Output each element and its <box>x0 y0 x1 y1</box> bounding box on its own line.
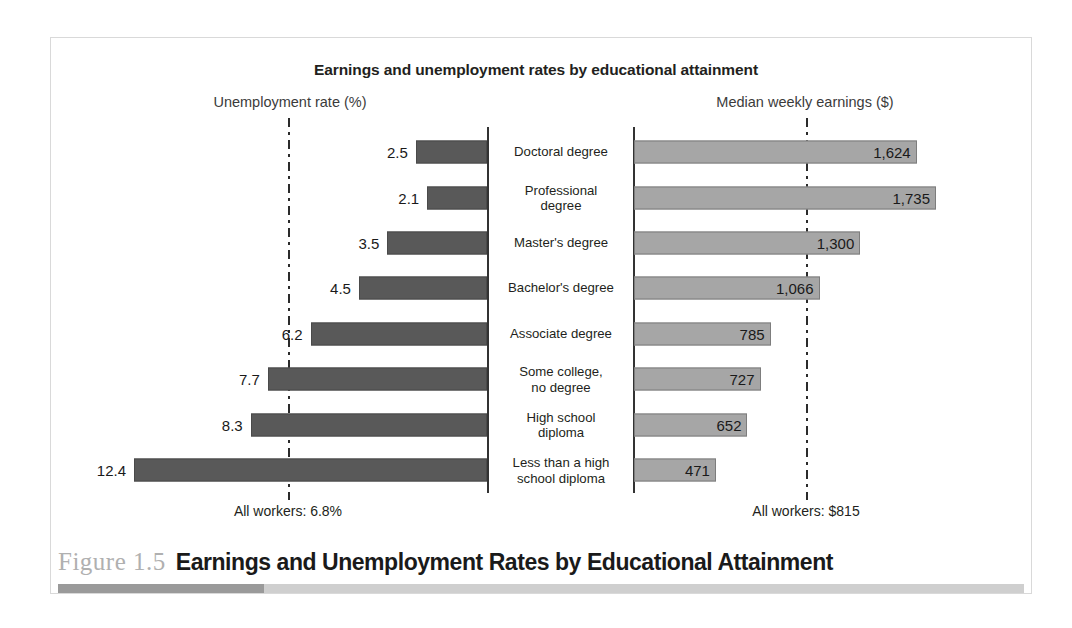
unemployment-value-label: 2.5 <box>387 144 408 161</box>
chart-row: 6.2Associate degree785 <box>0 312 1072 357</box>
unemployment-value-label: 7.7 <box>239 371 260 388</box>
unemployment-value-label: 12.4 <box>97 462 126 479</box>
category-label-line: Some college, <box>519 364 603 379</box>
unemployment-bar-track: 12.4 <box>100 448 487 493</box>
unemployment-bar <box>387 232 487 255</box>
category-label-line: Professional <box>525 182 598 197</box>
unemployment-bar-track: 2.1 <box>100 175 487 220</box>
category-label-line: degree <box>540 198 581 213</box>
category-label: Master's degree <box>489 235 633 251</box>
earnings-bar-track: 1,300 <box>634 221 964 266</box>
earnings-value-label: 1,735 <box>874 189 930 206</box>
earnings-value-label: 1,624 <box>855 144 911 161</box>
earnings-bar-track: 1,624 <box>634 130 964 175</box>
unemployment-bar <box>251 413 487 436</box>
unemployment-value-label: 3.5 <box>359 235 380 252</box>
category-label-line: Master's degree <box>514 235 608 250</box>
category-label-line: Associate degree <box>510 326 612 341</box>
unemployment-bar-track: 3.5 <box>100 221 487 266</box>
earnings-value-label: 727 <box>699 371 755 388</box>
category-label-line: Bachelor's degree <box>508 281 614 296</box>
earnings-value-label: 785 <box>709 325 765 342</box>
all-workers-earnings-label: All workers: $815 <box>752 503 859 519</box>
category-label: Associate degree <box>489 326 633 342</box>
unemployment-bar-track: 7.7 <box>100 357 487 402</box>
unemployment-bar-track: 6.2 <box>100 312 487 357</box>
earnings-value-label: 471 <box>654 462 710 479</box>
unemployment-bar <box>416 141 487 164</box>
category-label: High schooldiploma <box>489 409 633 440</box>
unemployment-value-label: 2.1 <box>398 189 419 206</box>
figure-title: Earnings and Unemployment Rates by Educa… <box>176 549 833 575</box>
unemployment-bar <box>134 459 487 482</box>
unemployment-value-label: 8.3 <box>222 416 243 433</box>
chart-row: 2.5Doctoral degree1,624 <box>0 130 1072 175</box>
unemployment-bar <box>311 322 488 345</box>
caption-rule-accent <box>58 584 264 593</box>
chart-row: 7.7Some college,no degree727 <box>0 357 1072 402</box>
unemployment-bar-track: 8.3 <box>100 402 487 447</box>
unemployment-bar <box>268 368 487 391</box>
earnings-bar-track: 727 <box>634 357 964 402</box>
earnings-value-label: 1,300 <box>798 235 854 252</box>
butterfly-bar-chart: 2.5Doctoral degree1,6242.1Professionalde… <box>0 0 1072 628</box>
chart-row: 12.4Less than a highschool diploma471 <box>0 448 1072 493</box>
chart-row: 2.1Professionaldegree1,735 <box>0 175 1072 220</box>
earnings-bar-track: 1,735 <box>634 175 964 220</box>
unemployment-bar <box>359 277 487 300</box>
category-label-line: school diploma <box>517 470 605 485</box>
category-label-line: Doctoral degree <box>514 145 608 160</box>
chart-row: 4.5Bachelor's degree1,066 <box>0 266 1072 311</box>
category-label: Professionaldegree <box>489 182 633 213</box>
category-label-line: no degree <box>531 379 590 394</box>
unemployment-bar-track: 2.5 <box>100 130 487 175</box>
chart-row: 8.3High schooldiploma652 <box>0 402 1072 447</box>
all-workers-unemployment-label: All workers: 6.8% <box>234 503 342 519</box>
earnings-bar-track: 1,066 <box>634 266 964 311</box>
category-label-line: diploma <box>538 425 584 440</box>
earnings-bar-track: 471 <box>634 448 964 493</box>
caption-line: Figure 1.5Earnings and Unemployment Rate… <box>58 548 833 576</box>
earnings-bar-track: 652 <box>634 402 964 447</box>
figure-caption: Figure 1.5Earnings and Unemployment Rate… <box>58 548 1024 592</box>
caption-rule <box>58 584 1024 593</box>
earnings-bar-track: 785 <box>634 312 964 357</box>
category-label: Less than a highschool diploma <box>489 455 633 486</box>
earnings-value-label: 652 <box>685 416 741 433</box>
earnings-value-label: 1,066 <box>758 280 814 297</box>
category-label-line: High school <box>527 409 596 424</box>
category-label: Bachelor's degree <box>489 281 633 297</box>
chart-row: 3.5Master's degree1,300 <box>0 221 1072 266</box>
category-label: Doctoral degree <box>489 145 633 161</box>
unemployment-bar <box>427 186 487 209</box>
unemployment-value-label: 4.5 <box>330 280 351 297</box>
unemployment-bar-track: 4.5 <box>100 266 487 311</box>
unemployment-value-label: 6.2 <box>282 325 303 342</box>
category-label: Some college,no degree <box>489 364 633 395</box>
category-label-line: Less than a high <box>513 455 610 470</box>
figure-number: Figure 1.5 <box>58 548 166 575</box>
